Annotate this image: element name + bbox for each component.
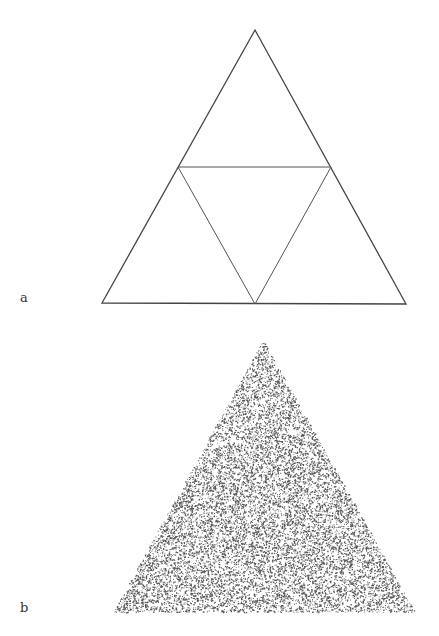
random-point-triangle — [0, 0, 439, 636]
